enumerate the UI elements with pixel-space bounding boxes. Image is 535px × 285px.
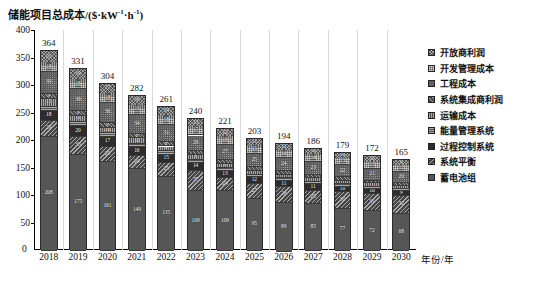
y-tick-label: 200	[16, 135, 30, 145]
bar-segment: 85	[305, 204, 321, 251]
chart-title-end: )	[140, 9, 144, 21]
y-tick-label: 100	[16, 190, 30, 200]
legend-item-2[interactable]: 开发管理成本	[428, 61, 532, 77]
legend-item-8[interactable]: 系统平衡	[428, 154, 532, 170]
x-tick-label-2028: 2028	[333, 252, 352, 262]
y-tick-mark	[31, 85, 34, 86]
bar-total-label: 261	[149, 94, 183, 104]
segment-value-label: 15	[158, 156, 174, 161]
bar-segment: 24	[129, 156, 145, 169]
bar-2020[interactable]: 1718369101729161304	[99, 83, 117, 250]
bar-2030[interactable]: 9122093268165	[392, 159, 410, 250]
category-separator	[387, 30, 388, 250]
bar-2024[interactable]: 12162781324109221	[216, 128, 234, 250]
bar-total-label: 331	[61, 56, 95, 66]
legend-swatch-icon	[428, 80, 435, 87]
bar-total-label: 240	[179, 106, 213, 116]
segment-value-label: 22	[335, 168, 351, 173]
bar-segment: 149	[129, 169, 145, 251]
segment-value-label: 24	[276, 161, 292, 166]
y-tick-mark	[31, 140, 34, 141]
segment-value-label: 31	[364, 200, 380, 205]
bar-2022[interactable]: 141831891525135261	[157, 106, 175, 250]
legend-item-9[interactable]: 蓄电池组	[428, 170, 532, 186]
y-axis-zero-label: 0	[22, 244, 27, 254]
segment-value-label: 161	[100, 204, 116, 209]
segment-value-label: 17	[188, 128, 204, 133]
segment-value-label: 208	[41, 191, 57, 196]
bar-segment: 68	[393, 214, 409, 251]
chart-title-text: 储能项目总成本/($·kW	[8, 9, 118, 21]
bar-segment: 13	[188, 119, 204, 126]
bar-segment: 36	[100, 103, 116, 123]
bar-segment: 14	[188, 163, 204, 171]
stacked-bar-chart: 储能项目总成本/($·kW-1·h-1) 5010015020025030035…	[0, 0, 535, 285]
bar-segment: 17	[100, 84, 116, 93]
segment-value-label: 24	[217, 181, 233, 186]
segment-value-label: 14	[158, 109, 174, 114]
bar-2025[interactable]: 111525122795203	[246, 138, 264, 250]
segment-value-label: 25	[305, 194, 321, 199]
bar-2026[interactable]: 111424112889194	[275, 143, 293, 250]
bar-2021[interactable]: 1619348101624149282	[128, 95, 146, 250]
bar-segment: 25	[305, 191, 321, 205]
segment-value-label: 16	[217, 137, 233, 142]
segment-value-label: 34	[129, 121, 145, 126]
y-tick-mark	[31, 195, 34, 196]
legend-item-6[interactable]: 能量管理系统	[428, 123, 532, 139]
y-tick-mark	[31, 58, 34, 59]
segment-value-label: 95	[247, 222, 263, 227]
legend-item-7[interactable]: 过程控制系统	[428, 139, 532, 155]
bar-2028[interactable]: 101322103077179	[334, 152, 352, 250]
x-tick-label-2021: 2021	[127, 252, 146, 262]
segment-value-label: 16	[129, 98, 145, 103]
segment-value-label: 11	[276, 181, 292, 186]
category-separator	[240, 30, 241, 250]
legend-item-5[interactable]: 运输成本	[428, 107, 532, 123]
plot-area: 50100150200250300350400 2118399151829208…	[34, 30, 416, 250]
bar-segment: 16	[217, 136, 233, 145]
segment-value-label: 68	[393, 229, 409, 234]
chart-title-mid: ·h	[124, 9, 134, 21]
legend-item-3[interactable]: 工程成本	[428, 76, 532, 92]
bar-2019[interactable]: 1918399112033175331	[69, 68, 87, 250]
segment-value-label: 13	[335, 158, 351, 163]
segment-value-label: 13	[364, 162, 380, 167]
bar-segment: 18	[100, 93, 116, 103]
y-tick-label: 250	[16, 108, 30, 118]
bar-segment: 39	[70, 89, 86, 110]
category-separator	[152, 30, 153, 250]
legend-item-1[interactable]: 开放商利润	[428, 45, 532, 61]
bar-2029[interactable]: 101321103172172	[363, 155, 381, 250]
bar-segment: 25	[158, 163, 174, 177]
bar-segment: 15	[247, 145, 263, 153]
bar-segment: 161	[100, 162, 116, 251]
segment-value-label: 10	[129, 138, 145, 143]
bar-segment: 15	[41, 99, 57, 107]
bar-segment: 29	[100, 147, 116, 163]
segment-value-label: 12	[247, 177, 263, 182]
bar-segment: 15	[158, 155, 174, 163]
segment-value-label: 33	[70, 142, 86, 147]
segment-value-label: 31	[158, 130, 174, 135]
x-axis-labels: 2018201920202021202220232024202520262027…	[34, 252, 416, 268]
segment-value-label: 25	[247, 157, 263, 162]
bar-2018[interactable]: 2118399151829208364	[40, 50, 58, 250]
category-separator	[122, 30, 123, 250]
legend-item-4[interactable]: 系统集成商利润	[428, 92, 532, 108]
bar-segment: 33	[70, 137, 86, 155]
segment-value-label: 39	[41, 80, 57, 85]
y-tick-label: 300	[16, 80, 30, 90]
bar-total-label: 364	[32, 38, 66, 48]
y-tick-mark	[31, 168, 34, 169]
segment-value-label: 27	[247, 188, 263, 193]
segment-value-label: 85	[305, 224, 321, 229]
bar-segment: 13	[335, 158, 351, 165]
bar-2027[interactable]: 101423112585186	[304, 148, 322, 250]
segment-value-label: 18	[41, 112, 57, 117]
bar-2023[interactable]: 13172981437109240	[187, 118, 205, 250]
segment-value-label: 29	[41, 125, 57, 130]
bar-segment: 29	[41, 121, 57, 137]
y-tick-mark	[31, 30, 34, 31]
legend-item-label: 工程成本	[440, 77, 476, 90]
